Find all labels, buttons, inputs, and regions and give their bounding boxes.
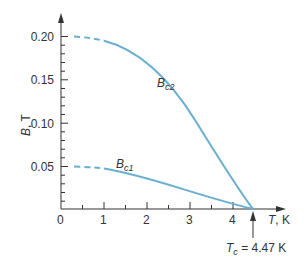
bc2-curve-dashed	[74, 37, 104, 41]
tc-value: = 4.47 K	[238, 241, 286, 255]
bc1-label-main: B	[116, 157, 124, 171]
bc2-label-sub: c2	[165, 82, 175, 92]
y-tick-label: 0.05	[20, 161, 54, 173]
bc2-label: Bc2	[157, 77, 175, 92]
bc2-curve	[104, 41, 253, 209]
y-axis-symbol: B	[19, 128, 33, 136]
bc1-label: Bc1	[116, 158, 134, 173]
y-tick-label: 0.20	[20, 31, 54, 43]
x-axis-title: T, K	[268, 214, 290, 226]
bc1-curve-dashed	[74, 167, 104, 169]
x-axis-unit: , K	[275, 213, 290, 227]
tc-arrow-icon	[250, 211, 256, 221]
y-axis-arrow-icon	[58, 13, 64, 23]
x-tick-label: 0	[57, 214, 64, 226]
x-tick-label: 4	[229, 214, 236, 226]
y-tick-label: 0.15	[20, 74, 54, 86]
x-tick-label: 2	[143, 214, 150, 226]
x-tick-label: 3	[186, 214, 193, 226]
bc2-label-main: B	[157, 76, 165, 90]
bc1-label-sub: c1	[124, 163, 134, 173]
tc-annotation: Tc = 4.47 K	[226, 242, 286, 257]
bc1-curve	[104, 169, 253, 210]
y-major-ticks	[61, 37, 68, 167]
y-axis-title: B, T	[20, 114, 32, 136]
y-axis-unit: , T	[19, 114, 33, 128]
x-tick-label: 1	[100, 214, 107, 226]
x-axis-arrow-icon	[276, 206, 286, 212]
